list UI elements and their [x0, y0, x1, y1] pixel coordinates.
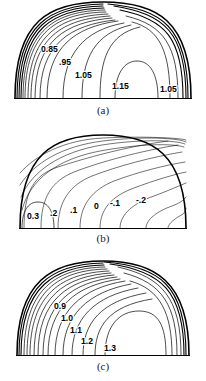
contour-label-b-5: -.2	[136, 195, 146, 205]
contour-label-c-0: 0.9	[54, 301, 66, 311]
contour-label-b-0: 0.3	[27, 211, 39, 221]
panel-caption-a: (a)	[0, 104, 206, 116]
dome-boundary-c	[17, 261, 189, 355]
dome-boundary-b	[20, 135, 186, 228]
contour-label-a-4: 1.05	[160, 84, 177, 94]
contour-plot-b: 0.3 .2 .1 0 -.1 -.2	[0, 127, 206, 231]
contour-label-c-2: 1.1	[70, 325, 82, 335]
contour-label-c-3: 1.2	[81, 336, 93, 346]
contour-label-c-4: 1.3	[104, 343, 116, 353]
contour-label-b-3: 0	[94, 201, 99, 211]
contour-label-b-4: -.1	[110, 198, 120, 208]
contour-group-b	[20, 137, 186, 228]
contour-plot-a: 0.85 .95 1.05 1.15 1.05	[0, 0, 206, 104]
contour-label-a-3: 1.15	[112, 81, 129, 91]
contour-labels-a: 0.85 .95 1.05 1.15 1.05	[41, 44, 177, 94]
contour-plot-c: 0.9 1.0 1.1 1.2 1.3	[0, 255, 206, 359]
panel-caption-c: (c)	[0, 360, 206, 372]
contour-group-c-labeled	[55, 262, 186, 355]
panel-caption-b: (b)	[0, 232, 206, 244]
contour-label-a-2: 1.05	[75, 70, 92, 80]
contour-labels-b: 0.3 .2 .1 0 -.1 -.2	[27, 195, 146, 221]
contour-label-b-1: .2	[50, 208, 57, 218]
contour-label-a-0: 0.85	[41, 44, 58, 54]
contour-label-b-2: .1	[70, 205, 77, 215]
contour-label-c-1: 1.0	[61, 313, 73, 323]
contour-label-a-1: .95	[59, 57, 71, 67]
